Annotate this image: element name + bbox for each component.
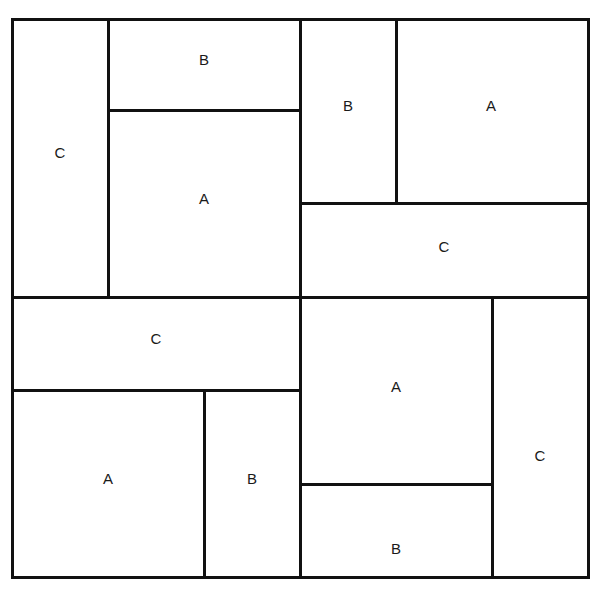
region-label: B bbox=[391, 540, 401, 557]
region-label: B bbox=[199, 51, 209, 68]
tr-horizontal-line bbox=[299, 202, 589, 205]
region-label: B bbox=[343, 97, 353, 114]
tr-vertical-line bbox=[395, 18, 398, 204]
region-label: A bbox=[199, 190, 209, 207]
mid-horizontal-line bbox=[11, 296, 589, 299]
region-label: C bbox=[151, 330, 162, 347]
region-label: A bbox=[391, 378, 401, 395]
region-br-b bbox=[300, 484, 492, 577]
quilt-block-diagram: C B A B A C C A B A B C bbox=[0, 0, 595, 592]
bl-vertical-line bbox=[203, 389, 206, 578]
region-label: C bbox=[55, 144, 66, 161]
region-br-c bbox=[492, 297, 588, 577]
tl-vertical-line bbox=[107, 18, 110, 298]
br-vertical-line bbox=[491, 296, 494, 578]
tl-horizontal-line bbox=[107, 109, 301, 112]
bl-horizontal-line bbox=[11, 389, 301, 392]
region-label: C bbox=[535, 447, 546, 464]
region-label: A bbox=[103, 470, 113, 487]
br-horizontal-line bbox=[299, 483, 493, 486]
region-label: A bbox=[486, 97, 496, 114]
region-label: B bbox=[247, 470, 257, 487]
region-label: C bbox=[439, 238, 450, 255]
